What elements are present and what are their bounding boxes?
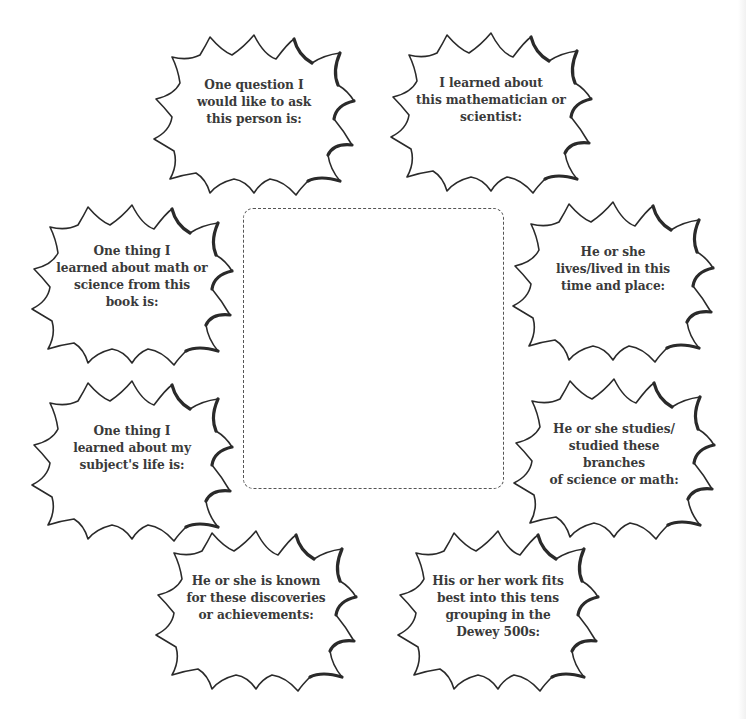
worksheet-page: One question I would like to ask this pe… (0, 0, 746, 719)
burst-discoveries: He or she is known for these discoveries… (154, 529, 358, 691)
burst-prompt-text: He or she is known for these discoveries… (180, 573, 332, 624)
burst-math-science: One thing I learned about math or scienc… (30, 203, 234, 365)
burst-prompt-text: He or she studies/ studied these branche… (538, 421, 690, 489)
burst-branches: He or she studies/ studied these branche… (512, 377, 716, 539)
burst-prompt-text: One thing I learned about my subject's l… (64, 423, 200, 474)
burst-time-place: He or she lives/lived in this time and p… (511, 200, 715, 362)
center-drawing-frame (243, 208, 504, 489)
burst-question: One question I would like to ask this pe… (152, 33, 356, 195)
burst-learned-about: I learned about this mathematician or sc… (389, 31, 593, 193)
burst-subject-life: One thing I learned about my subject's l… (30, 379, 234, 541)
burst-prompt-text: His or her work fits best into this tens… (422, 573, 574, 641)
burst-dewey: His or her work fits best into this tens… (396, 529, 600, 691)
page-edge-shadow (738, 0, 746, 719)
burst-prompt-text: He or she lives/lived in this time and p… (545, 244, 681, 295)
burst-prompt-text: One question I would like to ask this pe… (186, 77, 322, 128)
burst-prompt-text: One thing I learned about math or scienc… (56, 243, 208, 311)
burst-prompt-text: I learned about this mathematician or sc… (415, 75, 567, 126)
